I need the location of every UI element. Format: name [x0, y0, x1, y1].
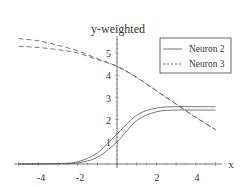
chart-svg: y-weighted -4 -2 2 4 x 1 2 3 4 5 Neuron …	[0, 0, 247, 187]
legend: Neuron 2 Neuron 3	[160, 38, 231, 73]
y-tick-label: 2	[106, 115, 111, 126]
x-tick-label: -2	[76, 172, 84, 183]
x-tick-label: 4	[195, 172, 200, 183]
x-axis: -4 -2 2 4 x	[14, 158, 234, 183]
x-tick-label: -4	[37, 172, 45, 183]
x-tick-label: 2	[155, 172, 160, 183]
chart-title: y-weighted	[91, 22, 145, 36]
y-tick-label: 3	[106, 93, 111, 104]
y-axis: 1 2 3 4 5	[106, 36, 119, 168]
chart: y-weighted -4 -2 2 4 x 1 2 3 4 5 Neuron …	[0, 0, 247, 187]
y-tick-label: 5	[106, 48, 111, 59]
y-tick-label: 4	[106, 70, 111, 81]
legend-label: Neuron 2	[189, 44, 225, 54]
x-axis-label: x	[228, 158, 234, 170]
legend-label: Neuron 3	[189, 59, 225, 69]
